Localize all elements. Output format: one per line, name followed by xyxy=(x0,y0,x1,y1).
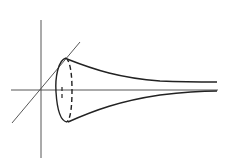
background xyxy=(0,0,228,168)
horn-diagram xyxy=(0,0,228,168)
